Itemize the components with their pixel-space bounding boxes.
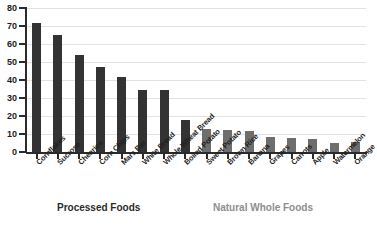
- y-axis-tick: [19, 115, 27, 117]
- y-axis-tick: [19, 7, 27, 9]
- y-axis-tick: [19, 133, 27, 135]
- group-label-natural-whole-foods: Natural Whole Foods: [213, 202, 313, 213]
- y-axis-tick-label: 80: [0, 4, 17, 13]
- bar-cheerios: [75, 55, 84, 152]
- y-axis-tick-label: 0: [0, 148, 17, 157]
- y-axis-tick: [19, 25, 27, 27]
- y-axis-tick: [19, 97, 27, 99]
- group-label-processed-foods: Processed Foods: [57, 202, 140, 213]
- bar-cornflakes: [32, 23, 41, 152]
- bar-watermelon: [330, 143, 339, 152]
- y-axis-tick-label: 20: [0, 112, 17, 121]
- gridline: [26, 44, 366, 45]
- y-axis-tick-label: 40: [0, 76, 17, 85]
- y-axis-tick-label: 70: [0, 22, 17, 31]
- y-axis-tick: [19, 79, 27, 81]
- y-axis-tick-label: 10: [0, 130, 17, 139]
- y-axis-tick: [19, 43, 27, 45]
- gridline: [26, 26, 366, 27]
- y-axis-tick: [19, 61, 27, 63]
- gridline: [26, 8, 366, 9]
- y-axis-tick-label: 60: [0, 40, 17, 49]
- y-axis-tick-label: 30: [0, 94, 17, 103]
- y-axis-tick-label: 50: [0, 58, 17, 67]
